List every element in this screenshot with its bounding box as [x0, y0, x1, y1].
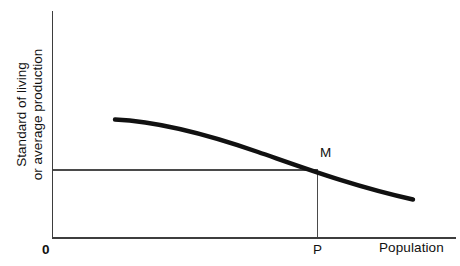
y-axis-title-line-2: or average production [30, 14, 46, 214]
curve-point-label-m: M [320, 146, 331, 160]
x-marker-label-p: P [313, 243, 322, 257]
origin-label: 0 [42, 243, 50, 257]
chart-figure: Standard of living or average production… [0, 0, 460, 266]
x-axis-title: Population [379, 241, 444, 255]
standard-of-living-curve [115, 120, 413, 200]
chart-plot-area [0, 0, 460, 266]
y-axis-title: Standard of living or average production [14, 14, 47, 214]
y-axis-title-line-1: Standard of living [14, 14, 30, 214]
